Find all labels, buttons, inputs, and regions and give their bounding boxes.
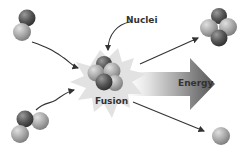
neutron xyxy=(212,127,230,145)
nuclei-label: Nuclei xyxy=(126,15,158,25)
input-arrow-top xyxy=(32,42,78,68)
fusion-label: Fusion xyxy=(95,96,128,106)
output-arrow-helium xyxy=(140,38,198,64)
deuterium-nucleus xyxy=(13,10,36,42)
tritium-nucleus xyxy=(11,111,49,144)
energy-label: Energy xyxy=(178,78,213,88)
helium-nucleus xyxy=(200,8,237,47)
input-arrow-bottom xyxy=(36,90,74,110)
nuclei-arrow xyxy=(108,22,130,50)
